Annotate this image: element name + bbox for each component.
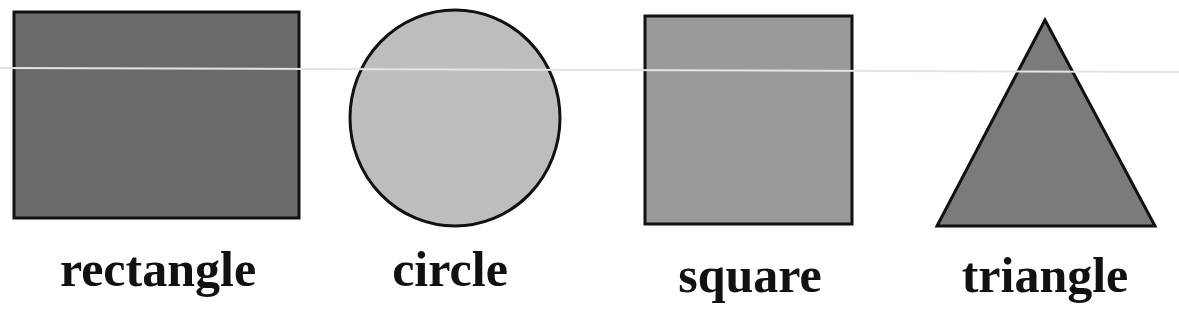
triangle-label: triangle (962, 250, 1129, 300)
rectangle-label: rectangle (60, 244, 256, 294)
rectangle-shape (14, 12, 299, 218)
square-label: square (678, 250, 822, 300)
circle-label: circle (392, 244, 508, 294)
circle-shape (350, 10, 560, 226)
square-shape (645, 16, 852, 224)
triangle-shape (937, 20, 1155, 226)
